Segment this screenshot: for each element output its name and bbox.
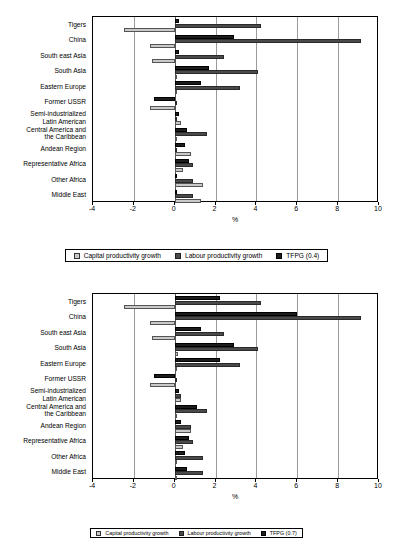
- bar-group: [93, 387, 377, 403]
- y-axis-labels-bottom: TigersChinaSouth east AsiaSouth AsiaEast…: [0, 293, 90, 479]
- legend-label: TFPG (0.7): [270, 530, 297, 536]
- plot-area-bottom: [92, 293, 378, 479]
- bar-tfpg: [175, 389, 179, 393]
- plot-frame-top: [92, 16, 378, 202]
- bar-tfpg: [175, 467, 187, 471]
- y-axis-tick-label: Central America and: [0, 126, 86, 134]
- y-axis-category-8: Andean Region: [0, 145, 86, 153]
- y-axis-tick-label: South Asia: [0, 344, 86, 352]
- x-axis-tick-label: -4: [89, 482, 95, 489]
- y-axis-category-5: Former USSR: [0, 375, 86, 383]
- bar-group: [93, 310, 377, 326]
- bar-group: [93, 17, 377, 33]
- y-axis-category-2: South east Asia: [0, 329, 86, 337]
- bar-tfpg: [175, 81, 202, 85]
- bar-group: [93, 48, 377, 64]
- x-axis-top: -4-20246810: [92, 202, 378, 216]
- x-axis-tick-label: 4: [253, 482, 257, 489]
- bar-group: [93, 294, 377, 310]
- x-axis-tick-label: -4: [89, 205, 95, 212]
- bar-tfpg: [175, 420, 181, 424]
- bar-labour: [175, 363, 240, 367]
- bar-tfpg: [154, 97, 174, 101]
- y-axis-tick-label: South east Asia: [0, 329, 86, 337]
- bar-labour: [175, 378, 177, 382]
- bar-labour: [175, 55, 224, 59]
- y-axis-category-9: Representative Africa: [0, 160, 86, 168]
- legend-label: Labour productivity growth: [185, 252, 262, 259]
- bar-tfpg: [175, 159, 189, 163]
- bar-labour: [175, 409, 208, 413]
- legend-swatch-tfpg: [276, 253, 282, 259]
- bar-labour: [175, 117, 177, 121]
- bar-tfpg: [175, 19, 179, 23]
- y-axis-category-10: Other Africa: [0, 176, 86, 184]
- x-axis-tick-label: 8: [335, 482, 339, 489]
- y-axis-category-3: South Asia: [0, 67, 86, 75]
- legend-box-top: Capital productivity growthLabour produc…: [65, 249, 329, 262]
- x-axis-tick-label: -2: [130, 205, 136, 212]
- bar-tfpg: [175, 174, 177, 178]
- bar-labour: [175, 440, 193, 444]
- bar-tfpg: [175, 405, 197, 409]
- y-axis-category-0: Tigers: [0, 298, 86, 306]
- bar-rows-top: [93, 17, 377, 201]
- bar-group: [93, 64, 377, 80]
- bar-group: [93, 403, 377, 419]
- bar-group: [93, 325, 377, 341]
- y-axis-tick-label: Andean Region: [0, 145, 86, 153]
- y-axis-category-6: Semi-industrializedLatin American: [0, 387, 86, 402]
- bar-group: [93, 110, 377, 126]
- x-axis-tick-label: 8: [335, 205, 339, 212]
- legend-item-tfpg: TFPG (0.7): [261, 530, 297, 536]
- x-axis-tick-label: -2: [130, 482, 136, 489]
- bar-tfpg: [175, 312, 298, 316]
- legend-label: Capital productivity growth: [84, 252, 161, 259]
- bar-labour: [175, 347, 259, 351]
- y-axis-tick-label: the Caribbean: [0, 133, 86, 141]
- y-axis-tick-label: Semi-industrialized: [0, 387, 86, 395]
- y-axis-tick-label: Tigers: [0, 21, 86, 29]
- bar-labour: [175, 179, 193, 183]
- bar-group: [93, 95, 377, 111]
- bar-labour: [175, 394, 181, 398]
- plot-area-top: [92, 16, 378, 202]
- y-axis-category-2: South east Asia: [0, 52, 86, 60]
- y-axis-category-8: Andean Region: [0, 422, 86, 430]
- legend-bottom: Capital productivity growthLabour produc…: [0, 528, 393, 538]
- legend-label: TFPG (0.4): [286, 252, 319, 259]
- bar-group: [93, 141, 377, 157]
- y-axis-tick-label: Other Africa: [0, 176, 86, 184]
- x-axis-tick-label: 6: [294, 205, 298, 212]
- bar-tfpg: [175, 143, 185, 147]
- x-axis-tick-label: 2: [213, 205, 217, 212]
- bar-group: [93, 33, 377, 49]
- bar-group: [93, 341, 377, 357]
- legend-swatch-capital: [96, 531, 101, 536]
- bar-rows-bottom: [93, 294, 377, 478]
- y-axis-tick-label: China: [0, 313, 86, 321]
- chart-bottom: TigersChinaSouth east AsiaSouth AsiaEast…: [0, 277, 393, 553]
- legend-swatch-labour: [175, 253, 181, 259]
- legend-item-capital: Capital productivity growth: [96, 530, 168, 536]
- y-axis-tick-label: Middle East: [0, 191, 86, 199]
- y-axis-tick-label: Eastern Europe: [0, 360, 86, 368]
- bar-group: [93, 79, 377, 95]
- legend-item-labour: Labour productivity growth: [179, 530, 251, 536]
- bar-group: [93, 157, 377, 173]
- chart-top: TigersChinaSouth east AsiaSouth AsiaEast…: [0, 0, 393, 276]
- x-axis-tick-label: 10: [374, 205, 382, 212]
- y-axis-tick-label: Middle East: [0, 468, 86, 476]
- y-axis-tick-label: Andean Region: [0, 422, 86, 430]
- bar-labour: [175, 163, 193, 167]
- legend-item-tfpg: TFPG (0.4): [276, 252, 319, 259]
- bar-labour: [175, 86, 240, 90]
- y-axis-tick-label: Former USSR: [0, 98, 86, 106]
- bar-group: [93, 356, 377, 372]
- y-axis-tick-label: Eastern Europe: [0, 83, 86, 91]
- y-axis-tick-label: Representative Africa: [0, 160, 86, 168]
- y-axis-category-1: China: [0, 313, 86, 321]
- y-axis-tick-label: South Asia: [0, 67, 86, 75]
- bar-labour: [175, 148, 177, 152]
- legend-box-bottom: Capital productivity growthLabour produc…: [90, 528, 302, 538]
